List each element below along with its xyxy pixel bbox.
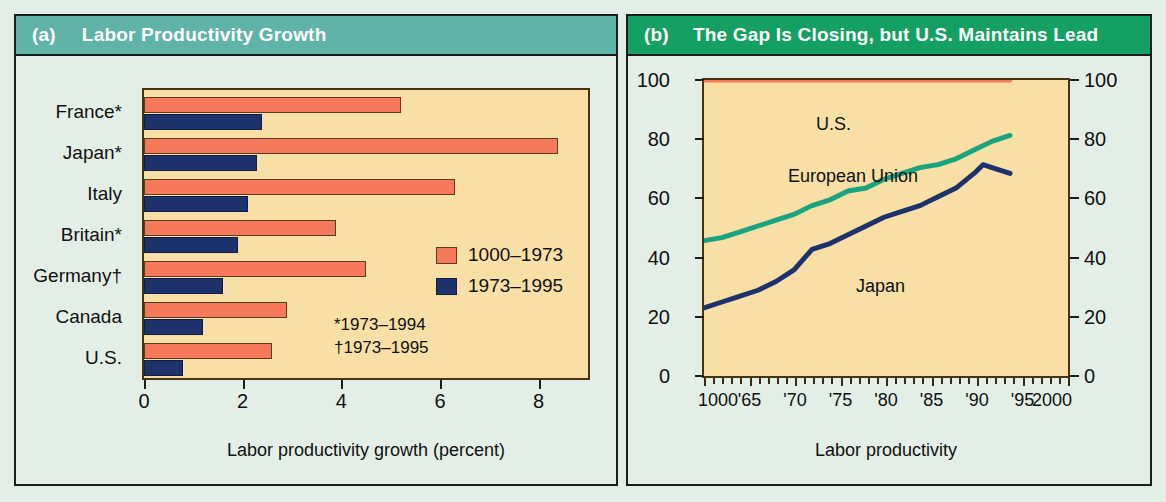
x-axis-tick-label: 1000 <box>698 390 738 411</box>
y-axis-tick-label-right: 80 <box>1084 128 1106 151</box>
panel-a-title: Labor Productivity Growth <box>82 24 327 46</box>
bar-category-label: Japan* <box>63 142 122 164</box>
x-axis-tick <box>440 380 442 389</box>
y-axis-tick-label-right: 100 <box>1084 69 1117 92</box>
x-axis-tick <box>813 378 815 384</box>
x-axis-tick-label: 0 <box>138 390 149 413</box>
x-axis-tick <box>1032 378 1034 384</box>
x-axis-tick <box>1059 378 1061 384</box>
footnote-asterisk: *1973–1994 <box>334 314 429 337</box>
y-axis-tick-right <box>1070 197 1079 199</box>
bar-category-label: Germany† <box>33 265 122 287</box>
y-axis-tick-right <box>1070 316 1079 318</box>
x-axis-tick <box>713 378 715 384</box>
x-axis-tick <box>704 378 706 386</box>
panel-a-tag: (a) <box>32 24 56 46</box>
x-axis-tick <box>759 378 761 384</box>
bar-chart-x-axis: 02468 <box>142 380 590 426</box>
x-axis-tick <box>995 378 997 384</box>
bar-category-label: U.S. <box>85 347 122 369</box>
legend-label: 1000–1973 <box>468 244 563 266</box>
x-axis-tick-label: 6 <box>434 390 445 413</box>
footnote-dagger: †1973–1995 <box>334 337 429 360</box>
x-axis-tick <box>968 378 970 384</box>
legend-label: 1973–1995 <box>468 275 563 297</box>
x-axis-tick <box>1023 378 1025 386</box>
x-axis-tick <box>895 378 897 384</box>
x-axis-tick <box>877 378 879 384</box>
x-axis-tick <box>932 378 934 386</box>
x-axis-tick <box>859 378 861 384</box>
x-axis-tick <box>904 378 906 384</box>
x-axis-tick <box>539 380 541 389</box>
x-axis-tick-label: 4 <box>336 390 347 413</box>
x-axis-tick-label: '70 <box>783 390 806 411</box>
x-axis-tick <box>886 378 888 386</box>
bar-category-label: France* <box>55 101 122 123</box>
x-axis-tick <box>1004 378 1006 384</box>
x-axis-tick <box>831 378 833 384</box>
legend-item: 1000–1973 <box>436 244 563 266</box>
bar-period-2 <box>144 114 262 130</box>
x-axis-tick-label: '75 <box>829 390 852 411</box>
x-axis-tick <box>786 378 788 384</box>
bar-period-2 <box>144 196 248 212</box>
legend-swatch <box>436 278 457 295</box>
bar-period-2 <box>144 278 223 294</box>
bar-period-2 <box>144 237 238 253</box>
panel-a-header: (a) Labor Productivity Growth <box>16 16 616 56</box>
bar-period-1 <box>144 220 336 236</box>
bar-period-2 <box>144 360 183 376</box>
figure-root: (a) Labor Productivity Growth France*Jap… <box>0 0 1166 502</box>
bar-group <box>144 90 588 131</box>
y-axis-tick-right <box>1070 79 1079 81</box>
y-axis-tick-right <box>1070 257 1079 259</box>
x-axis-tick <box>341 380 343 389</box>
bar-period-1 <box>144 138 558 154</box>
y-axis-tick-label-right: 20 <box>1084 305 1106 328</box>
x-axis-tick <box>740 378 742 384</box>
x-axis-tick <box>144 380 146 389</box>
x-axis-tick-label: 2000 <box>1032 390 1072 411</box>
bar-period-1 <box>144 343 272 359</box>
x-axis-tick-label: '80 <box>874 390 897 411</box>
x-axis-tick <box>750 378 752 386</box>
line-chart-x-axis: 1000'65'70'75'80'85'90'952000 <box>702 378 1070 424</box>
bar-category-labels: France*Japan*ItalyBritain*Germany†Canada… <box>16 88 134 380</box>
x-axis-tick <box>243 380 245 389</box>
x-axis-tick-label: 8 <box>533 390 544 413</box>
x-axis-tick <box>868 378 870 384</box>
bar-chart-footnotes: *1973–1994 †1973–1995 <box>334 314 429 360</box>
x-axis-tick <box>850 378 852 384</box>
x-axis-tick <box>1068 378 1070 386</box>
x-axis-tick <box>777 378 779 384</box>
x-axis-tick <box>986 378 988 384</box>
x-axis-tick <box>804 378 806 384</box>
panel-b: (b) The Gap Is Closing, but U.S. Maintai… <box>626 14 1152 486</box>
x-axis-tick <box>768 378 770 384</box>
x-axis-tick <box>795 378 797 386</box>
x-axis-tick-label: '90 <box>965 390 988 411</box>
bar-period-1 <box>144 179 455 195</box>
x-axis-tick <box>1050 378 1052 384</box>
legend-swatch <box>436 247 457 264</box>
bar-group <box>144 131 588 172</box>
y-axis-tick-right <box>1070 375 1079 377</box>
y-axis-tick-right <box>1070 138 1079 140</box>
y-axis-tick-label-right: 60 <box>1084 187 1106 210</box>
x-axis-tick <box>922 378 924 384</box>
x-axis-tick-label: '65 <box>738 390 761 411</box>
legend-item: 1973–1995 <box>436 275 563 297</box>
bar-period-2 <box>144 319 203 335</box>
bar-category-label: Italy <box>87 183 122 205</box>
x-axis-tick <box>1013 378 1015 384</box>
x-axis-tick <box>841 378 843 386</box>
x-axis-tick <box>1041 378 1043 384</box>
bar-period-1 <box>144 302 287 318</box>
bar-category-label: Britain* <box>61 224 122 246</box>
x-axis-tick <box>977 378 979 386</box>
x-axis-tick <box>941 378 943 384</box>
bar-period-1 <box>144 261 366 277</box>
panel-a: (a) Labor Productivity Growth France*Jap… <box>14 14 618 486</box>
bar-period-1 <box>144 97 401 113</box>
